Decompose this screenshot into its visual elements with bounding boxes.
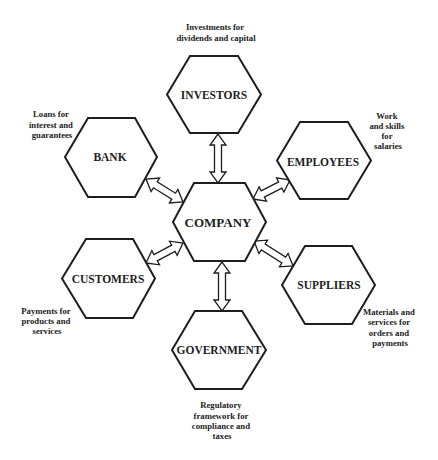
node-label-investors: INVESTORS: [181, 89, 247, 101]
node-label-company: COMPANY: [185, 215, 253, 230]
annotation-line: dividends and capital: [176, 33, 256, 43]
node-label-government: GOVERNMENT: [177, 344, 262, 356]
node-suppliers: SUPPLIERS: [282, 246, 375, 324]
annotation-employees: Work and skills for salaries: [369, 111, 406, 151]
annotation-suppliers: Materials and services for orders and pa…: [363, 307, 417, 348]
arrow-company-employees: [253, 178, 290, 201]
annotation-line: taxes: [213, 431, 232, 441]
annotation-line: framework for: [194, 411, 249, 421]
stakeholder-diagram: INVESTORS Investments for dividends and …: [0, 0, 438, 460]
node-investors: INVESTORS: [167, 56, 261, 133]
annotation-line: services for: [368, 317, 410, 327]
annotation-line: salaries: [374, 141, 403, 151]
annotation-government: Regulatory framework for compliance and …: [192, 400, 252, 441]
node-label-employees: EMPLOYEES: [287, 156, 359, 168]
arrow-company-suppliers: [254, 240, 293, 267]
annotation-line: Payments for: [21, 306, 71, 316]
annotation-line: services: [33, 326, 63, 336]
node-government: GOVERNMENT: [172, 311, 266, 389]
annotation-line: orders and: [369, 328, 409, 338]
annotation-investors: Investments for dividends and capital: [176, 22, 256, 43]
arrow-company-bank: [146, 178, 183, 203]
annotation-line: Investments for: [186, 22, 244, 32]
annotation-line: for: [381, 131, 392, 141]
arrow-company-customers: [146, 241, 183, 265]
annotation-customers: Payments for products and services: [21, 306, 72, 336]
annotation-line: Regulatory: [200, 400, 242, 410]
annotation-line: and skills: [369, 121, 405, 131]
annotation-bank: Loans for interest and guarantees: [29, 109, 75, 140]
node-employees: EMPLOYEES: [277, 122, 371, 199]
node-label-bank: BANK: [93, 151, 126, 163]
annotation-line: payments: [372, 338, 408, 348]
node-label-customers: CUSTOMERS: [72, 273, 145, 285]
annotation-line: guarantees: [32, 130, 73, 140]
node-bank: BANK: [65, 118, 157, 197]
annotation-line: Loans for: [33, 109, 69, 119]
annotation-line: Work: [376, 111, 397, 121]
annotation-line: interest and: [29, 120, 73, 130]
arrow-company-investors: [210, 134, 226, 183]
annotation-line: Materials and: [363, 307, 415, 317]
node-customers: CUSTOMERS: [62, 239, 155, 318]
node-label-suppliers: SUPPLIERS: [297, 279, 360, 291]
node-company: COMPANY: [173, 183, 266, 261]
arrow-company-government: [214, 262, 230, 311]
annotation-line: products and: [21, 316, 70, 326]
annotation-line: compliance and: [192, 421, 250, 431]
